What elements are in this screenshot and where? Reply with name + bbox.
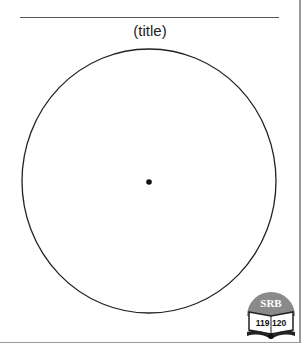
srb-logo: SRB 119 120: [243, 290, 299, 340]
center-point: [146, 179, 152, 185]
logo-page-numbers: 119 120: [256, 318, 287, 328]
logo-top-text: SRB: [260, 297, 282, 309]
